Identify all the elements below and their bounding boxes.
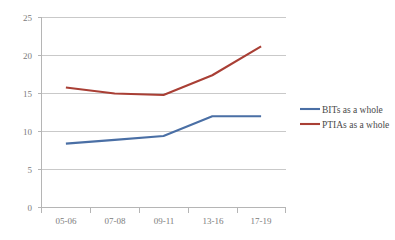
x-axis bbox=[42, 208, 286, 213]
y-tick-labels: 25 20 15 10 5 0 bbox=[23, 13, 33, 213]
y-axis bbox=[38, 18, 42, 208]
chart-canvas: 25 20 15 10 5 0 05-06 07-08 09-11 13-16 … bbox=[0, 0, 395, 240]
y-tick-label-5: 5 bbox=[28, 165, 33, 175]
x-tick-labels: 05-06 07-08 09-11 13-16 17-19 bbox=[56, 216, 272, 226]
legend-label-ptias: PTIAs as a whole bbox=[322, 120, 389, 130]
series-line-bits bbox=[66, 116, 261, 143]
y-tick-label-25: 25 bbox=[23, 13, 33, 23]
legend-label-bits: BITs as a whole bbox=[322, 105, 383, 115]
gridlines bbox=[42, 18, 286, 208]
y-tick-label-0: 0 bbox=[28, 203, 33, 213]
series-group bbox=[66, 46, 261, 143]
line-chart: 25 20 15 10 5 0 05-06 07-08 09-11 13-16 … bbox=[0, 0, 395, 240]
y-tick-label-10: 10 bbox=[23, 127, 33, 137]
y-tick-label-15: 15 bbox=[23, 89, 33, 99]
y-tick-label-20: 20 bbox=[23, 51, 33, 61]
legend: BITs as a whole PTIAs as a whole bbox=[300, 105, 389, 130]
x-tick-label-13-16: 13-16 bbox=[203, 216, 224, 226]
x-tick-label-07-08: 07-08 bbox=[105, 216, 126, 226]
series-line-ptias bbox=[66, 46, 261, 95]
x-tick-label-17-19: 17-19 bbox=[251, 216, 272, 226]
x-tick-label-09-11: 09-11 bbox=[154, 216, 175, 226]
x-tick-label-05-06: 05-06 bbox=[56, 216, 77, 226]
